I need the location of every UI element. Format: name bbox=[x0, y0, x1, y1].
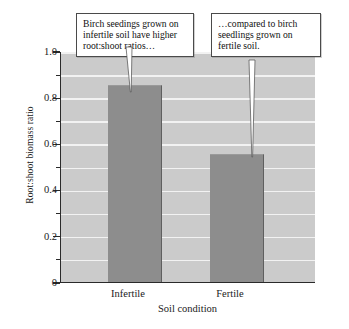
gridline bbox=[61, 168, 315, 170]
gridline bbox=[61, 191, 315, 193]
annotation-callout-fertile: …compared to birch seedlings grown on fe… bbox=[211, 13, 321, 57]
y-tick-label: 0.2 bbox=[44, 232, 57, 243]
y-tick-minor bbox=[56, 75, 60, 76]
y-tick-minor bbox=[56, 121, 60, 122]
x-axis-title: Soil condition bbox=[60, 303, 315, 314]
bar-infertile[interactable] bbox=[108, 85, 162, 283]
figure-caption bbox=[8, 319, 349, 329]
gridline bbox=[61, 98, 315, 100]
gridline bbox=[61, 214, 315, 216]
x-tick-label-infertile: Infertile bbox=[78, 288, 178, 299]
y-tick-minor bbox=[56, 259, 60, 260]
annotation-pointer-infertile bbox=[118, 47, 148, 92]
y-tick-label: 0.4 bbox=[44, 185, 57, 196]
gridline bbox=[61, 75, 315, 77]
bar-fertile[interactable] bbox=[210, 154, 264, 282]
plot-area bbox=[60, 52, 315, 283]
figure-container: 00.20.40.60.81.0 Root:shoot biomass rati… bbox=[0, 0, 349, 329]
y-tick-label: 0.8 bbox=[44, 93, 57, 104]
y-tick-label: 0.6 bbox=[44, 139, 57, 150]
gridline bbox=[61, 237, 315, 239]
y-tick-label: 1.0 bbox=[44, 47, 57, 58]
y-axis-title: Root:shoot biomass ratio bbox=[25, 65, 35, 245]
gridline bbox=[61, 121, 315, 123]
y-tick-label: 0 bbox=[52, 278, 57, 289]
gridline bbox=[61, 144, 315, 146]
y-tick-minor bbox=[56, 213, 60, 214]
x-tick-label-fertile: Fertile bbox=[180, 288, 280, 299]
gridline bbox=[61, 260, 315, 262]
annotation-pointer-fertile bbox=[240, 60, 270, 157]
y-tick-minor bbox=[56, 167, 60, 168]
